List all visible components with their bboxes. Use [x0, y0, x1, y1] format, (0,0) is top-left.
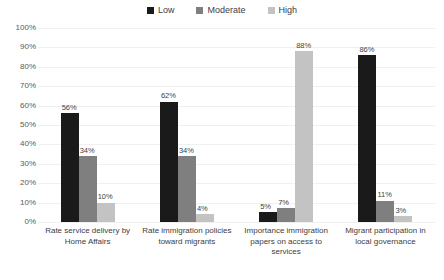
bar-moderate[interactable] — [79, 156, 97, 222]
bar-column: 11% — [376, 28, 394, 222]
bar-group-bars: 56%34%10% — [38, 28, 137, 222]
bar-value-label: 7% — [278, 199, 289, 207]
y-axis-tick-label: 0% — [2, 218, 36, 226]
y-axis-tick-label: 40% — [2, 140, 36, 148]
bar-group: 62%34%4% — [137, 28, 236, 222]
chart-legend: LowModerateHigh — [0, 2, 444, 18]
bar-value-label: 3% — [395, 207, 406, 215]
bar-column: 5% — [259, 28, 277, 222]
bar-low[interactable] — [358, 55, 376, 222]
x-axis-category-label: Importance immigration papers on access … — [237, 226, 336, 278]
legend-label: Moderate — [207, 6, 245, 15]
x-axis-category-label: Rate service delivery by Home Affairs — [38, 226, 137, 278]
legend-label: High — [279, 6, 298, 15]
bar-high[interactable] — [97, 203, 115, 222]
y-axis-tick-label: 100% — [2, 24, 36, 32]
x-axis-category-label: Migrant participation in local governanc… — [336, 226, 435, 278]
bar-group-bars: 5%7%88% — [237, 28, 336, 222]
y-axis-tick-label: 10% — [2, 199, 36, 207]
bar-group: 5%7%88% — [237, 28, 336, 222]
bar-column: 56% — [61, 28, 79, 222]
bar-group: 86%11%3% — [336, 28, 435, 222]
x-axis-category-label: Rate immigration policies toward migrant… — [137, 226, 236, 278]
bar-high[interactable] — [196, 214, 214, 222]
y-axis-tick-label: 60% — [2, 102, 36, 110]
y-axis-tick-label: 20% — [2, 179, 36, 187]
x-axis-labels: Rate service delivery by Home AffairsRat… — [38, 226, 435, 278]
bar-column: 62% — [160, 28, 178, 222]
bar-low[interactable] — [160, 102, 178, 222]
bar-column: 10% — [97, 28, 115, 222]
y-axis-tick-label: 50% — [2, 121, 36, 129]
bar-value-label: 34% — [179, 147, 194, 155]
bar-high[interactable] — [394, 216, 412, 222]
bar-high[interactable] — [295, 51, 313, 222]
bar-column: 88% — [295, 28, 313, 222]
bar-value-label: 4% — [197, 205, 208, 213]
bar-column: 3% — [394, 28, 412, 222]
bar-column: 4% — [196, 28, 214, 222]
bar-value-label: 10% — [98, 193, 113, 201]
bar-group-bars: 86%11%3% — [336, 28, 435, 222]
legend-swatch-icon — [268, 7, 275, 14]
y-axis-tick-label: 90% — [2, 43, 36, 51]
legend-entry-high[interactable]: High — [268, 6, 298, 15]
bar-value-label: 11% — [377, 191, 391, 199]
bar-value-label: 88% — [296, 42, 311, 50]
bar-column: 34% — [178, 28, 196, 222]
y-axis-tick-label: 70% — [2, 82, 36, 90]
bar-value-label: 86% — [359, 46, 374, 54]
bar-value-label: 34% — [80, 147, 95, 155]
bar-chart: LowModerateHigh 100%90%80%70%60%50%40%30… — [0, 0, 444, 280]
legend-entry-moderate[interactable]: Moderate — [196, 6, 245, 15]
bar-value-label: 62% — [161, 92, 176, 100]
y-axis-tick-label: 30% — [2, 160, 36, 168]
bar-value-label: 5% — [260, 203, 271, 211]
bar-low[interactable] — [259, 212, 277, 222]
bar-column: 7% — [277, 28, 295, 222]
y-axis-tick-label: 80% — [2, 63, 36, 71]
legend-entry-low[interactable]: Low — [147, 6, 175, 15]
gridline — [38, 222, 435, 223]
bar-group: 56%34%10% — [38, 28, 137, 222]
bar-moderate[interactable] — [178, 156, 196, 222]
bar-column: 86% — [358, 28, 376, 222]
bar-column: 34% — [79, 28, 97, 222]
bar-moderate[interactable] — [277, 208, 295, 222]
bar-value-label: 56% — [62, 104, 77, 112]
legend-swatch-icon — [147, 7, 154, 14]
bar-group-bars: 62%34%4% — [137, 28, 236, 222]
y-axis: 100%90%80%70%60%50%40%30%20%10%0% — [0, 28, 36, 222]
legend-label: Low — [158, 6, 175, 15]
legend-swatch-icon — [196, 7, 203, 14]
bar-moderate[interactable] — [376, 201, 394, 222]
bar-low[interactable] — [61, 113, 79, 222]
bar-groups: 56%34%10%62%34%4%5%7%88%86%11%3% — [38, 28, 435, 222]
